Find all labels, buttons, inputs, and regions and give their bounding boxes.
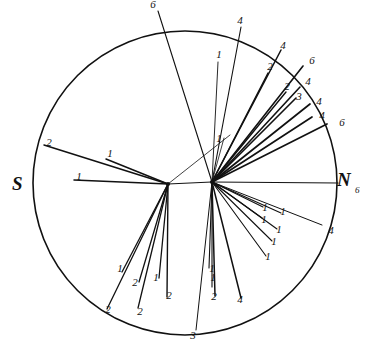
left-hub-point [166, 182, 170, 186]
ray-weight-label: 3 [295, 90, 302, 102]
ray-weight-label: 1 [261, 213, 267, 225]
ray-weight-label: 2 [132, 276, 138, 288]
ray-weight-label: 1 [210, 271, 216, 283]
radial-diagram-figure: 6441262434461111111411243211122212 SN6 [0, 0, 367, 361]
ray-weight-label: 2 [105, 303, 111, 315]
ray-weight-label: 1 [107, 147, 113, 159]
ray-weight-label: 6 [150, 0, 156, 10]
ray-line [212, 124, 327, 182]
ray-line [107, 184, 168, 309]
ray-weight-label: 1 [276, 223, 282, 235]
ray-weight-label: 1 [280, 205, 286, 217]
ray-line [106, 159, 168, 184]
ray-weight-label: 1 [216, 132, 222, 144]
ray-line [212, 98, 296, 182]
ray-weight-label: 2 [211, 290, 217, 302]
ray-weight-label: 2 [137, 305, 143, 317]
ray-weight-label: 1 [271, 235, 277, 247]
ray-weight-label: 3 [189, 329, 196, 341]
ray-line [212, 182, 338, 183]
ray-line [138, 184, 168, 308]
ray-labels-layer: 6441262434461111111411243211122212 [46, 0, 345, 341]
ray-weight-label: 1 [265, 250, 271, 262]
ray-line [168, 182, 212, 184]
ray-line [212, 117, 312, 182]
cardinal-labels-layer: SN6 [12, 169, 360, 195]
ray-weight-label: 4 [280, 39, 286, 51]
ray-line [212, 73, 268, 182]
ray-weight-label: 6 [339, 116, 345, 128]
ray-weight-label: 4 [237, 293, 243, 305]
ray-weight-label: 4 [316, 95, 322, 107]
ray-line [44, 145, 168, 184]
rays-layer [44, 11, 338, 330]
ray-weight-label: 1 [117, 262, 123, 274]
ray-line [212, 104, 310, 182]
ray-weight-label: 1 [216, 48, 222, 60]
ray-weight-label: 4 [319, 109, 325, 121]
ray-weight-label: 2 [267, 60, 273, 72]
ray-weight-label: 4 [328, 224, 334, 236]
north-count: 6 [355, 185, 360, 195]
ray-weight-label: 4 [305, 75, 311, 87]
ray-weight-label: 4 [237, 14, 243, 26]
diagram-canvas: 6441262434461111111411243211122212 SN6 [0, 0, 367, 361]
ray-weight-label: 1 [76, 170, 82, 182]
ray-line [74, 180, 168, 184]
ray-weight-label: 1 [262, 201, 268, 213]
ray-line [158, 11, 212, 182]
north-label: N [336, 169, 352, 190]
ray-weight-label: 2 [46, 136, 52, 148]
ray-line [167, 184, 168, 297]
ray-weight-label: 6 [309, 54, 315, 66]
ray-line [212, 182, 281, 213]
ray-line [212, 92, 286, 182]
south-label: S [12, 173, 23, 194]
ray-line [212, 182, 266, 256]
ray-weight-label: 1 [153, 271, 159, 283]
ray-weight-label: 2 [284, 80, 290, 92]
ray-weight-label: 2 [166, 289, 172, 301]
right-hub-point [210, 180, 214, 184]
